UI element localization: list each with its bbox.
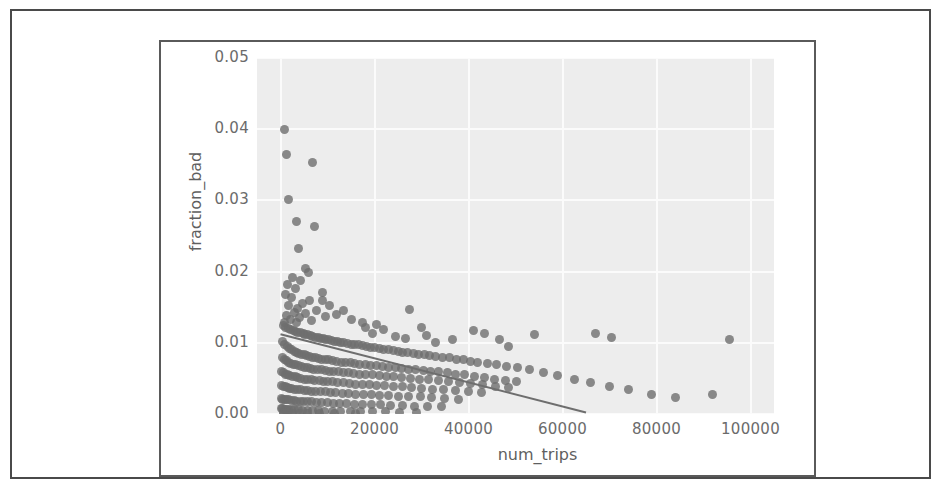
x-axis-label: num_trips xyxy=(161,445,818,464)
scatter-point xyxy=(451,386,460,395)
scatter-point xyxy=(315,409,324,414)
scatter-point xyxy=(404,392,413,401)
scatter-point xyxy=(504,342,513,351)
scatter-point xyxy=(530,330,539,339)
x-axis-tick-labels: 020000400006000080000100000 xyxy=(161,420,818,444)
scatter-point xyxy=(282,150,291,159)
x-tick-label: 100000 xyxy=(721,420,780,438)
scatter-point xyxy=(384,391,393,400)
scatter-point xyxy=(318,296,327,305)
scatter-point xyxy=(437,402,446,411)
x-tick-label: 60000 xyxy=(538,420,587,438)
scatter-point xyxy=(454,395,463,404)
scatter-point xyxy=(412,408,421,414)
scatter-point xyxy=(325,301,334,310)
scatter-point xyxy=(512,377,521,386)
scatter-point xyxy=(624,385,633,394)
scatter-point xyxy=(477,388,486,397)
scatter-point xyxy=(423,402,432,411)
scatter-point xyxy=(380,381,389,390)
scatter-point xyxy=(483,359,492,368)
scatter-point xyxy=(397,373,406,382)
scatter-point xyxy=(444,377,453,386)
scatter-point xyxy=(439,385,448,394)
scatter-point xyxy=(539,368,548,377)
scatter-point xyxy=(291,284,300,293)
scatter-point xyxy=(394,392,403,401)
scatter-point xyxy=(339,306,348,315)
scatter-point xyxy=(405,305,414,314)
scatter-point xyxy=(424,375,433,384)
scatter-point xyxy=(415,375,424,384)
scatter-point xyxy=(303,409,312,414)
scatter-point xyxy=(434,376,443,385)
y-tick-label: 0.03 xyxy=(214,190,249,208)
scatter-point xyxy=(379,325,388,334)
scanned-page-frame: 0.000.010.020.030.040.05 020000400006000… xyxy=(10,9,931,479)
scatter-point xyxy=(586,378,595,387)
scatter-point xyxy=(605,382,614,391)
scatter-point xyxy=(294,244,303,253)
scatter-point xyxy=(553,371,562,380)
y-tick-label: 0.01 xyxy=(214,333,249,351)
scatter-point xyxy=(312,306,321,315)
x-tick-label: 20000 xyxy=(350,420,399,438)
y-tick-label: 0.04 xyxy=(214,119,249,137)
scatter-point xyxy=(469,326,478,335)
scatter-point xyxy=(280,125,289,134)
scatter-point xyxy=(292,217,301,226)
x-tick-label: 80000 xyxy=(632,420,681,438)
scatter-point xyxy=(647,390,656,399)
scatter-point xyxy=(671,393,680,402)
scatter-point xyxy=(448,335,457,344)
scatter-point xyxy=(308,158,317,167)
scatter-point xyxy=(351,409,360,414)
scatter-point xyxy=(375,391,384,400)
scatter-point xyxy=(330,409,339,414)
scatter-point xyxy=(381,407,390,414)
figure-box: 0.000.010.020.030.040.05 020000400006000… xyxy=(159,40,816,477)
scatter-point xyxy=(347,315,356,324)
scatter-point xyxy=(416,392,425,401)
scatter-point xyxy=(473,358,482,367)
y-axis-label: fraction_bad xyxy=(186,122,205,282)
scatter-point xyxy=(310,222,319,231)
scatter-point xyxy=(307,316,316,325)
scatter-point xyxy=(406,374,415,383)
scatter-point xyxy=(504,383,513,392)
scatter-point xyxy=(296,276,305,285)
scatter-point xyxy=(389,382,398,391)
scatter-points xyxy=(257,58,774,414)
scatter-point xyxy=(427,393,436,402)
scatter-point xyxy=(492,360,501,369)
scatter-point xyxy=(431,338,440,347)
x-tick-label: 0 xyxy=(276,420,286,438)
x-tick-label: 40000 xyxy=(444,420,493,438)
scatter-point xyxy=(491,382,500,391)
scatter-point xyxy=(368,407,377,414)
scatter-point xyxy=(407,383,416,392)
scatter-point xyxy=(391,332,400,341)
plot-axes-area xyxy=(257,58,774,414)
scatter-point xyxy=(607,333,616,342)
scatter-point xyxy=(513,363,522,372)
scatter-point xyxy=(708,390,717,399)
scatter-point xyxy=(395,408,404,414)
scatter-point xyxy=(525,365,534,374)
scatter-point xyxy=(725,335,734,344)
y-tick-label: 0.02 xyxy=(214,262,249,280)
scatter-point xyxy=(464,387,473,396)
scatter-point xyxy=(591,329,600,338)
scatter-point xyxy=(502,362,511,371)
scatter-point xyxy=(570,375,579,384)
scatter-point xyxy=(422,331,431,340)
y-tick-label: 0.05 xyxy=(214,48,249,66)
x-axis-label-text: num_trips xyxy=(498,445,578,464)
scatter-point xyxy=(480,329,489,338)
scatter-point xyxy=(284,195,293,204)
scatter-point xyxy=(304,268,313,277)
scatter-point xyxy=(279,410,288,415)
scatter-point xyxy=(398,382,407,391)
scatter-point xyxy=(401,334,410,343)
scatter-point xyxy=(495,335,504,344)
